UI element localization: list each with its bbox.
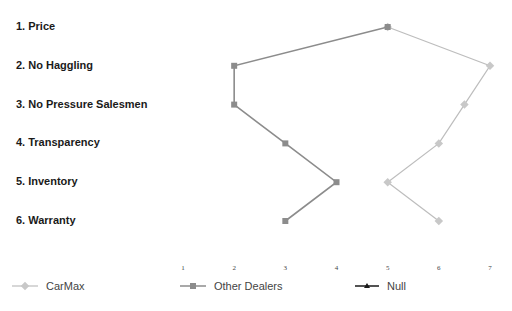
- series-line-other-dealers: [234, 27, 387, 221]
- series-line-carmax: [388, 27, 490, 221]
- data-point-other-dealers: [385, 24, 391, 30]
- data-point-other-dealers: [282, 218, 288, 224]
- data-point-other-dealers: [231, 63, 237, 69]
- legend-label-null: Null: [387, 280, 406, 292]
- data-point-carmax: [486, 62, 494, 70]
- data-point-carmax: [460, 100, 468, 108]
- chart-plot-area: [0, 0, 512, 311]
- legend-item-null: Null: [355, 280, 406, 292]
- null-legend-marker-icon: [355, 281, 379, 291]
- data-point-other-dealers: [231, 102, 237, 108]
- carmax-legend-marker-icon: [12, 281, 38, 291]
- data-point-other-dealers: [282, 140, 288, 146]
- data-point-other-dealers: [334, 179, 340, 185]
- legend-item-carmax: CarMax: [12, 280, 85, 292]
- legend-label-other-dealers: Other Dealers: [214, 280, 282, 292]
- legend-label-carmax: CarMax: [46, 280, 85, 292]
- other-dealers-legend-marker-icon: [180, 281, 206, 291]
- legend-item-other-dealers: Other Dealers: [180, 280, 282, 292]
